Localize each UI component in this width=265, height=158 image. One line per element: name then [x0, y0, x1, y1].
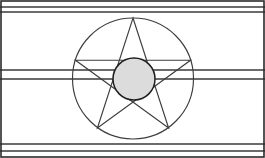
- figure-canvas: [0, 0, 265, 158]
- geometric-figure-svg: [0, 0, 265, 158]
- center-disc: [113, 58, 155, 100]
